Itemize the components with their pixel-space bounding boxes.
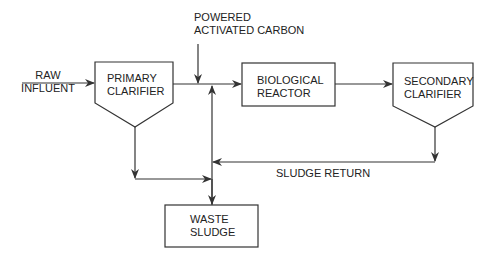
process-diagram	[0, 0, 493, 259]
sludge-label: SLUDGE	[190, 226, 235, 239]
waste-sludge-label: WASTE SLUDGE	[190, 213, 235, 239]
activated-carbon-label: ACTIVATED CARBON	[194, 24, 304, 37]
secondary-label: SECONDARY	[404, 75, 473, 88]
clarifier-label: CLARIFIER	[107, 85, 164, 98]
sludge-return-label: SLUDGE RETURN	[276, 167, 370, 180]
secondary-clarifier-label: SECONDARY CLARIFIER	[404, 75, 473, 101]
primary-clarifier-label: PRIMARY CLARIFIER	[107, 72, 164, 98]
raw-label: RAW	[20, 69, 76, 82]
biological-label: BIOLOGICAL	[257, 74, 324, 87]
waste-label: WASTE	[190, 213, 235, 226]
primary-label: PRIMARY	[107, 72, 164, 85]
biological-reactor-label: BIOLOGICAL REACTOR	[257, 74, 324, 100]
influent-label: INFLUENT	[20, 82, 76, 95]
pac-label: POWERED ACTIVATED CARBON	[194, 11, 304, 37]
powered-label: POWERED	[194, 11, 304, 24]
clarifier-label-2: CLARIFIER	[404, 88, 473, 101]
reactor-label: REACTOR	[257, 87, 324, 100]
raw-influent-label: RAW INFLUENT	[20, 69, 76, 95]
